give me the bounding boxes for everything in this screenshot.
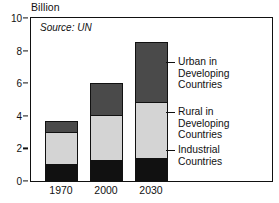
y-axis-tick-label: 4: [16, 110, 22, 121]
legend-label: Industrial Countries: [178, 144, 222, 167]
y-axis-tick-label: 2: [16, 143, 22, 154]
x-axis-tick-label: 2000: [94, 184, 117, 196]
legend-entry: Industrial Countries: [166, 144, 222, 167]
legend-entry: Urban in Developing Countries: [166, 56, 230, 91]
bar-segment: [91, 161, 122, 180]
legend-leader-line: [166, 62, 175, 63]
legend-label: Urban in Developing Countries: [178, 56, 230, 91]
bar-segment: [91, 84, 122, 116]
y-axis-tick-mark: [23, 50, 28, 51]
y-axis-tick-mark: [23, 115, 28, 116]
y-axis-tick-mark: [23, 83, 28, 84]
legend-label: Rural in Developing Countries: [178, 106, 230, 141]
x-axis-tick-label: 2030: [139, 184, 162, 196]
bar-segment: [91, 116, 122, 161]
y-axis-tick-mark: [23, 148, 28, 149]
legend-entry: Rural in Developing Countries: [166, 106, 230, 141]
chart-legend: Urban in Developing CountriesRural in De…: [166, 20, 271, 178]
stacked-bar: [135, 42, 168, 181]
y-axis-tick-mark: [23, 180, 28, 181]
bar-segment: [136, 103, 167, 159]
stacked-bar: [45, 121, 78, 181]
y-axis-tick-label: 10: [11, 13, 22, 24]
population-stacked-bar-chart: Billion 0246810 Source: UN Urban in Deve…: [0, 0, 279, 203]
bar-group: [135, 18, 168, 181]
y-axis-unit-label: Billion: [31, 1, 60, 13]
y-axis-tick-mark: [23, 17, 28, 18]
caption-strip: [0, 197, 279, 203]
x-axis-tick-label: 1970: [49, 184, 72, 196]
bar-segment: [46, 122, 77, 134]
bar-segment: [136, 43, 167, 103]
x-axis-line: [30, 181, 273, 182]
y-axis-tick-label: 8: [16, 45, 22, 56]
bar-group: [45, 18, 78, 181]
bar-segment: [136, 159, 167, 180]
bar-segment: [46, 165, 77, 180]
legend-leader-line: [166, 112, 175, 113]
y-axis-tick-label: 6: [16, 78, 22, 89]
y-axis-tick-label: 0: [16, 176, 22, 187]
bar-group: [90, 18, 123, 181]
legend-leader-line: [166, 150, 175, 151]
bar-segment: [46, 133, 77, 164]
plot-area: [31, 18, 161, 181]
stacked-bar: [90, 83, 123, 181]
y-axis: 0246810: [0, 10, 31, 190]
